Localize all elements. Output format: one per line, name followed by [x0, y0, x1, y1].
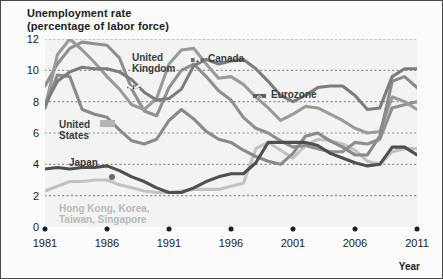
- series-label-asian-tigers-line2: Taiwan, Singapore: [59, 215, 150, 226]
- plot-area: [45, 39, 417, 227]
- y-axis-tick-label: 10: [13, 64, 39, 76]
- chart-title: Unemployment rate (percentage of labor f…: [27, 7, 169, 33]
- x-axis-title: Year: [399, 261, 420, 272]
- x-axis-tick-label: 1981: [25, 237, 65, 249]
- series-label-japan: Japan: [69, 158, 98, 169]
- chart-title-line2: (percentage of labor force): [27, 20, 169, 33]
- y-axis-tick-label: 4: [13, 158, 39, 170]
- union-jack-flag-icon: [127, 80, 140, 89]
- x-axis-tick-label: 1996: [211, 237, 251, 249]
- european-union-flag-icon: [253, 89, 266, 98]
- x-axis-tick-label: 2011: [397, 237, 437, 249]
- chart-title-line1: Unemployment rate: [27, 7, 169, 20]
- x-axis-tick-label: 2006: [335, 237, 375, 249]
- canada-maple-leaf-flag-icon: [191, 53, 204, 62]
- y-axis-tick-label: 2: [13, 190, 39, 202]
- y-axis-tick-label: 12: [13, 33, 39, 45]
- x-axis-tick-label: 1986: [87, 237, 127, 249]
- united-states-marker-icon: [100, 120, 115, 127]
- x-axis-tick-marker: [229, 227, 234, 232]
- x-axis-tick-marker: [43, 227, 48, 232]
- series-label-canada: Canada: [208, 54, 244, 65]
- x-axis-tick-label: 1991: [149, 237, 189, 249]
- x-axis-tick-marker: [167, 227, 172, 232]
- japan-marker-icon: [109, 174, 115, 180]
- y-axis-tick-label: 8: [13, 96, 39, 108]
- x-axis-tick-marker: [291, 227, 296, 232]
- y-axis-tick-label: 6: [13, 127, 39, 139]
- series-label-asian-tigers-line1: Hong Kong, Korea,: [59, 204, 150, 215]
- series-label-united-kingdom-line2: Kingdom: [132, 64, 175, 75]
- y-axis-tick-label: 0: [13, 221, 39, 233]
- series-label-united-states: United States: [59, 120, 90, 141]
- series-label-eurozone: Eurozone: [271, 90, 317, 101]
- series-canvas: [45, 39, 417, 227]
- series-label-united-kingdom: United Kingdom: [132, 53, 175, 74]
- series-label-united-states-line2: States: [59, 131, 90, 142]
- series-label-united-states-line1: United: [59, 120, 90, 131]
- x-axis-tick-marker: [415, 227, 420, 232]
- x-axis-tick-label: 2001: [273, 237, 313, 249]
- x-axis-tick-marker: [105, 227, 110, 232]
- x-axis-tick-marker: [353, 227, 358, 232]
- series-label-asian-tigers: Hong Kong, Korea, Taiwan, Singapore: [59, 204, 150, 225]
- unemployment-rate-chart: Unemployment rate (percentage of labor f…: [0, 0, 443, 279]
- series-label-united-kingdom-line1: United: [132, 53, 175, 64]
